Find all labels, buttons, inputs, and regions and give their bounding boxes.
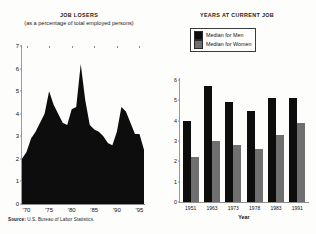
left-y-tick-mark — [20, 68, 22, 69]
source-text: U.S. Bureau of Labor Statistics. — [26, 217, 95, 222]
legend: Median for Men Median for Women — [190, 28, 256, 52]
bar-women — [212, 141, 220, 202]
left-chart-subtitle: (as a percentage of total employed perso… — [6, 19, 152, 27]
bar-women — [297, 123, 305, 202]
right-y-tick-mark — [178, 80, 180, 81]
bar-men — [247, 111, 255, 203]
legend-swatch-men — [194, 31, 203, 40]
left-x-tick-mark — [49, 46, 50, 48]
right-plot-area: 0123456 195119631973197819831991 — [180, 80, 308, 202]
bar-women — [191, 157, 199, 202]
bar-group — [247, 111, 263, 203]
left-x-tick-mark — [72, 46, 73, 48]
left-x-tick-mark — [94, 46, 95, 48]
left-y-tick-mark — [20, 91, 22, 92]
source-label: Source: — [8, 217, 26, 222]
bar-men — [268, 98, 276, 202]
bar-group — [289, 98, 305, 202]
legend-item-men: Median for Men — [194, 31, 251, 40]
left-chart-heading: JOB LOSERS (as a percentage of total emp… — [6, 12, 152, 27]
left-y-tick-mark — [20, 181, 22, 182]
left-x-tick-mark — [117, 46, 118, 48]
bar-men — [204, 86, 212, 202]
right-y-tick-mark — [178, 161, 180, 162]
left-x-tick-label: '70 — [23, 207, 31, 213]
left-y-tick-mark — [20, 136, 22, 137]
left-x-tick-label: '85 — [90, 207, 98, 213]
right-x-tick-label: 1963 — [206, 205, 217, 211]
right-x-tick-label: 1983 — [270, 205, 281, 211]
right-x-tick-label: 1973 — [228, 205, 239, 211]
legend-label-men: Median for Men — [206, 32, 243, 39]
left-chart-title: JOB LOSERS — [6, 12, 152, 19]
bar-men — [225, 102, 233, 202]
left-x-axis-line — [21, 204, 145, 205]
bar-women — [233, 145, 241, 202]
left-x-tick-label: '75 — [45, 207, 53, 213]
bar-group — [183, 121, 199, 202]
bar-women — [276, 135, 284, 202]
bar-group — [204, 86, 220, 202]
legend-item-women: Median for Women — [194, 40, 251, 49]
left-y-tick-mark — [20, 46, 22, 47]
bar-men — [289, 98, 297, 202]
right-y-tick-mark — [178, 181, 180, 182]
left-x-tick-label: '90 — [113, 207, 121, 213]
job-losers-area-series — [22, 46, 144, 204]
right-chart-heading: YEARS AT CURRENT JOB — [162, 12, 312, 19]
legend-swatch-women — [194, 40, 203, 49]
left-y-tick-mark — [20, 113, 22, 114]
left-y-tick-mark — [20, 158, 22, 159]
right-chart-title: YEARS AT CURRENT JOB — [162, 12, 312, 19]
legend-label-women: Median for Women — [206, 41, 251, 48]
right-x-tick-label: 1978 — [249, 205, 260, 211]
source-note: Source: U.S. Bureau of Labor Statistics. — [8, 217, 94, 222]
job-losers-chart-panel: JOB LOSERS (as a percentage of total emp… — [0, 8, 156, 228]
bar-men — [183, 121, 191, 202]
left-y-tick-mark — [20, 204, 22, 205]
right-y-tick-mark — [178, 100, 180, 101]
bar-group — [268, 98, 284, 202]
left-x-tick-label: '95 — [136, 207, 144, 213]
right-y-tick-mark — [178, 141, 180, 142]
left-x-tick-mark — [27, 46, 28, 48]
right-x-tick-label: 1991 — [292, 205, 303, 211]
figure-page: JOB LOSERS (as a percentage of total emp… — [0, 0, 316, 234]
right-x-axis-label: Year — [180, 214, 308, 220]
left-x-tick-mark — [139, 46, 140, 48]
right-x-tick-label: 1951 — [185, 205, 196, 211]
years-at-current-job-chart-panel: YEARS AT CURRENT JOB Median for Men Medi… — [158, 8, 316, 228]
left-x-tick-label: '80 — [68, 207, 76, 213]
right-y-tick-mark — [178, 202, 180, 203]
bar-women — [255, 149, 263, 202]
left-plot-area: 01234567 '70'75'80'85'90'95 — [22, 46, 144, 204]
right-x-axis-line — [179, 202, 309, 203]
bar-group — [225, 102, 241, 202]
right-y-tick-mark — [178, 120, 180, 121]
